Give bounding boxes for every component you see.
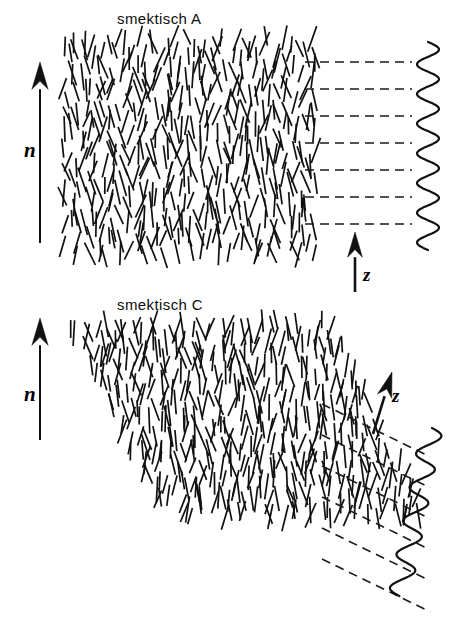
phase-title-smectic-a: smektisch A bbox=[117, 10, 201, 27]
layer-normal-label-smectic-c: z bbox=[392, 385, 399, 407]
figure-canvas bbox=[0, 0, 467, 626]
phase-title-smectic-c: smektisch C bbox=[117, 296, 203, 313]
layer-normal-arrow-smectic-c bbox=[373, 372, 392, 434]
layer-normal-label-smectic-a: z bbox=[363, 264, 370, 286]
dashed-layers-smectic-a bbox=[305, 62, 412, 224]
density-wave-smectic-a bbox=[417, 42, 439, 250]
layer-normal-arrow-smectic-a bbox=[348, 232, 363, 292]
smectic-phases-figure: smektisch A smektisch C n z n z bbox=[0, 0, 467, 626]
rod-block-smectic-a bbox=[58, 25, 321, 268]
dashed-layers-smectic-c bbox=[322, 404, 430, 612]
rod-block-smectic-c bbox=[71, 310, 421, 532]
director-arrow-smectic-c bbox=[32, 318, 48, 440]
director-label-smectic-a: n bbox=[24, 138, 36, 163]
director-label-smectic-c: n bbox=[24, 382, 36, 407]
